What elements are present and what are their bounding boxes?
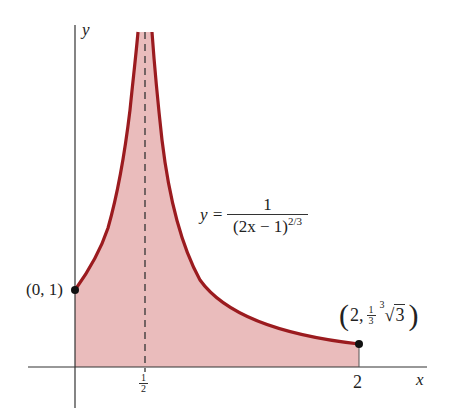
point-label-prefix: 2, [350,305,364,326]
equation-exponent: 2/3 [288,215,302,227]
root-index: 3 [380,299,385,310]
equation-fraction: 1 (2x − 1)2/3 [227,196,308,235]
point-label-2-end: ( 2, 1 3 3√3 ) [339,300,418,330]
equation-denominator: (2x − 1)2/3 [233,215,302,235]
point-coef: 1 3 [367,305,376,326]
close-paren: ) [408,300,418,330]
coef-numerator: 1 [367,305,376,316]
radical-sign: √ [385,305,395,325]
radicand: 3 [394,304,405,325]
coef-denominator: 3 [369,316,374,326]
equation-numerator: 1 [227,196,308,215]
equation-lhs: y = [200,205,223,225]
x-tick-label-2: 2 [353,372,362,393]
y-axis-label: y [82,20,90,40]
point-label-0-1: (0, 1) [26,280,63,300]
open-paren: ( [339,300,349,330]
cube-root: 3√3 [380,305,406,326]
point-2-end [355,340,363,348]
point-0-1 [71,286,79,294]
tick-half-denominator: 2 [141,384,146,394]
equation-label: y = 1 (2x − 1)2/3 [200,196,308,235]
x-tick-label-half: 1 2 [139,373,148,394]
equation-denominator-base: (2x − 1) [233,217,288,236]
x-axis-label: x [416,370,424,390]
